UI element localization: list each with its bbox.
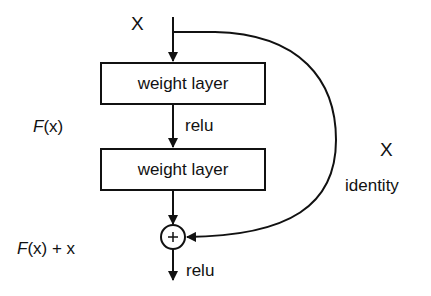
residual-function-label: F(x) [33, 118, 63, 135]
input-label: X [131, 14, 144, 33]
shortcut-x-label: X [380, 140, 393, 159]
weight-layer-1: weight layer [100, 62, 266, 105]
identity-label: identity [345, 177, 399, 194]
weight-layer-2-label: weight layer [138, 160, 229, 180]
relu-label-2: relu [186, 262, 214, 279]
weight-layer-2: weight layer [100, 148, 266, 191]
relu-label-1: relu [185, 117, 213, 134]
output-label: F(x) + x [17, 240, 75, 257]
weight-layer-1-label: weight layer [138, 74, 229, 94]
